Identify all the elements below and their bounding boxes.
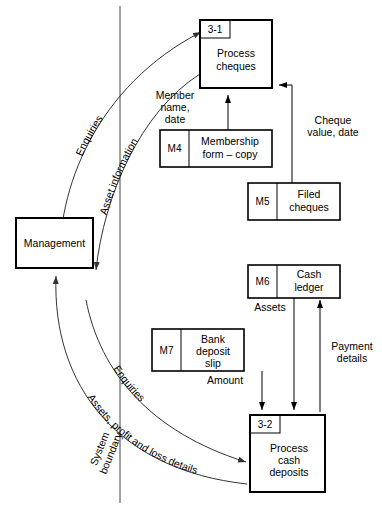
data-store-m4-name-line2: form – copy [203, 148, 259, 160]
label-asset-information-text: Asset information [97, 136, 140, 216]
process-3-2[interactable]: 3-2 Process cash deposits [250, 415, 325, 492]
label-enquiries-bottom-text: Enquiries [111, 363, 147, 404]
process-3-1[interactable]: 3-1 Process cheques [200, 20, 272, 88]
dfd-canvas: Management 3-1 Process cheques 3-2 Proce… [0, 0, 382, 509]
data-store-m6-code: M6 [256, 276, 270, 287]
label-payment-details-line2: details [337, 352, 367, 364]
data-store-m4[interactable]: M4 Membership form – copy [160, 130, 272, 167]
label-member-name-date-line3: date [165, 113, 186, 125]
data-store-m7[interactable]: M7 Bank deposit slip [152, 329, 244, 371]
process-3-1-name-line1: Process [217, 47, 255, 59]
data-store-m4-code: M4 [168, 143, 182, 154]
data-store-m5-name-line2: cheques [289, 201, 329, 213]
label-cheque-value-line1: Cheque [315, 114, 352, 126]
label-asset-information: Asset information [97, 136, 140, 216]
label-payment-details-line1: Payment [331, 340, 373, 352]
label-member-name-date-line2: name, [160, 101, 189, 113]
label-amount: Amount [207, 374, 243, 386]
process-3-2-name-line1: Process [270, 442, 308, 454]
data-store-m4-name-line1: Membership [201, 135, 259, 147]
system-boundary-label: System boundary [86, 425, 125, 475]
label-assets: Assets [254, 301, 286, 313]
flow-cheque-value-date [279, 85, 292, 183]
label-member-name-date-line1: Member [156, 89, 195, 101]
data-store-m5-code: M5 [256, 196, 270, 207]
process-3-2-name-line2: cash [278, 454, 300, 466]
label-enquiries-top: Enquiries [73, 113, 105, 158]
data-store-m5-name-line1: Filed [298, 188, 321, 200]
process-3-2-name-line3: deposits [269, 466, 308, 478]
data-store-m6-name-line2: ledger [294, 281, 324, 293]
data-store-m6[interactable]: M6 Cash ledger [248, 265, 340, 298]
data-store-m5[interactable]: M5 Filed cheques [248, 183, 340, 220]
data-store-m7-code: M7 [160, 345, 174, 356]
external-entity-management[interactable]: Management [16, 218, 93, 268]
data-flow-diagram: Management 3-1 Process cheques 3-2 Proce… [0, 0, 382, 509]
data-store-m7-name-line1: Bank [201, 333, 226, 345]
data-store-m6-name-line1: Cash [297, 268, 322, 280]
data-store-m7-name-line2: deposit [196, 345, 230, 357]
label-cheque-value-line2: value, date [307, 126, 359, 138]
process-3-1-name-line2: cheques [216, 60, 256, 72]
process-3-2-number: 3-2 [258, 419, 273, 430]
label-enquiries-top-text: Enquiries [73, 113, 105, 158]
label-enquiries-bottom: Enquiries [111, 363, 147, 404]
process-3-1-number: 3-1 [208, 24, 223, 35]
data-store-m7-name-line3: slip [205, 357, 221, 369]
management-label: Management [24, 237, 85, 249]
